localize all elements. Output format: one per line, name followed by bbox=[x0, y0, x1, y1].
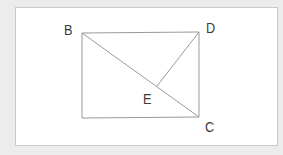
segment-de bbox=[157, 32, 199, 86]
diagram-canvas: B D E C bbox=[0, 0, 283, 155]
point-label-b: B bbox=[64, 22, 73, 37]
point-label-c: C bbox=[205, 119, 214, 134]
geometry-figure bbox=[0, 0, 283, 155]
segment-bc bbox=[82, 33, 199, 117]
point-label-e: E bbox=[143, 91, 152, 106]
point-label-d: D bbox=[206, 20, 215, 35]
